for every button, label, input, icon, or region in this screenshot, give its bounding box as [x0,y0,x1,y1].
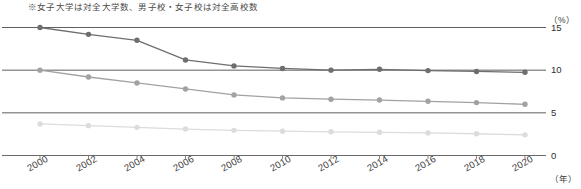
datapoint-series-dark-2018 [474,69,479,74]
datapoint-series-medium-2008 [231,92,236,97]
datapoint-series-light-2000 [37,121,42,126]
y-tick-label-15: 15 [551,22,562,33]
datapoint-series-light-2004 [134,125,139,130]
gridlines [2,28,546,156]
datapoint-series-medium-2016 [425,99,430,104]
datapoint-series-medium-2006 [183,86,188,91]
datapoint-series-dark-2014 [377,67,382,72]
datapoint-series-medium-2014 [377,97,382,102]
datapoint-series-light-2008 [231,128,236,133]
datapoint-series-dark-2002 [86,32,91,37]
datapoint-series-medium-2010 [280,95,285,100]
datapoint-series-light-2014 [377,130,382,135]
datapoint-series-light-2002 [86,123,91,128]
data-series-group [37,25,527,138]
datapoint-series-medium-2012 [328,96,333,101]
datapoint-series-light-2018 [474,131,479,136]
datapoint-series-dark-2008 [231,63,236,68]
datapoint-series-medium-2002 [86,74,91,79]
datapoint-series-dark-2000 [37,25,42,30]
datapoint-series-medium-2004 [134,80,139,85]
x-axis-unit-label: （年） [550,172,577,184]
datapoint-series-light-2010 [280,128,285,133]
datapoint-series-light-2020 [522,132,527,137]
line-series-dark [40,28,525,73]
datapoint-series-light-2006 [183,126,188,131]
datapoint-series-dark-2004 [134,38,139,43]
datapoint-series-medium-2020 [522,102,527,107]
datapoint-series-dark-2020 [522,70,527,75]
datapoint-series-dark-2016 [425,68,430,73]
datapoint-series-medium-2018 [474,100,479,105]
datapoint-series-light-2016 [425,130,430,135]
y-tick-label-5: 5 [551,107,556,118]
datapoint-series-dark-2012 [328,67,333,72]
y-tick-label-10: 10 [551,64,562,75]
datapoint-series-medium-2000 [37,67,42,72]
y-tick-label-0: 0 [551,150,556,161]
chart-container: ※女子大学は対全大学数、男子校・女子校は対全高校数 （%） （年） 151050… [0,0,581,189]
datapoint-series-dark-2010 [280,66,285,71]
datapoint-series-dark-2006 [183,57,188,62]
datapoint-series-light-2012 [328,129,333,134]
